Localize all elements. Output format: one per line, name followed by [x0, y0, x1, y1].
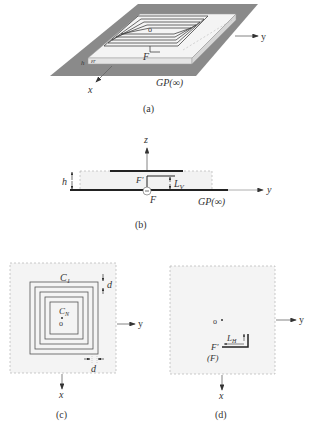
substrate-side-front	[88, 58, 192, 64]
panel-a-3d-view: o F h εr y x GP(∞) (a)	[50, 4, 266, 115]
antenna-figure: o F h εr y x GP(∞) (a) z y F' F LV h GP(…	[0, 0, 309, 427]
permittivity-label: εr	[91, 58, 96, 64]
y-axis-label: y	[266, 184, 272, 195]
y-axis-label: y	[299, 314, 304, 325]
ground-plane-label: GP(∞)	[156, 77, 184, 89]
ground-plane-label: GP(∞)	[198, 196, 226, 208]
caption-a: (a)	[143, 103, 154, 115]
x-axis-label: x	[58, 389, 64, 400]
caption-c: (c)	[56, 409, 67, 421]
feed-bottom-label: F	[149, 194, 157, 205]
caption-b: (b)	[135, 219, 147, 231]
caption-d: (d)	[215, 409, 227, 421]
panel-b-side-view: z y F' F LV h GP(∞) (b)	[62, 134, 272, 231]
y-axis-label: y	[261, 31, 266, 42]
y-axis-label: y	[138, 318, 143, 329]
x-axis-label: x	[87, 84, 93, 95]
x-axis-label: x	[218, 390, 224, 401]
origin-label: o	[59, 319, 63, 328]
z-axis-label: z	[143, 134, 148, 145]
feed-top-label: F'	[210, 342, 219, 352]
origin-label: o	[213, 317, 217, 326]
panel-c-top-view-spiral: C1 CN o d d y x (c)	[10, 263, 143, 421]
feed-top-label: F'	[135, 175, 144, 185]
origin-label: o	[148, 25, 152, 34]
height-label: h	[62, 176, 67, 187]
feed-bottom-label: (F)	[207, 353, 219, 363]
feed-label: F	[142, 51, 150, 62]
panel-d-top-view-feed: o LH F' (F) y x (d)	[170, 266, 304, 421]
height-label: h	[81, 59, 85, 67]
